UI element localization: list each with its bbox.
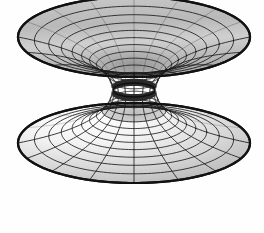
hyperboloid-surface-plot bbox=[0, 0, 264, 233]
figure-container bbox=[0, 0, 264, 233]
